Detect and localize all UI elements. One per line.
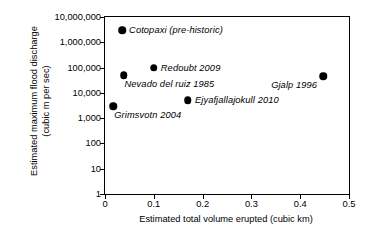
data-point-marker (120, 71, 128, 79)
data-point-label: Grimsvotn 2004 (114, 110, 181, 120)
data-point-label: Nevado del ruiz 1985 (125, 79, 215, 89)
data-point-label: Redoubt 2009 (161, 63, 221, 73)
x-axis-title: Estimated total volume erupted (cubic km… (104, 214, 348, 224)
x-tick-label: 0.4 (294, 199, 307, 209)
x-tick-label: 0 (102, 199, 107, 209)
y-tick-label: 10,000 (73, 88, 101, 98)
y-axis-title-line2: (cubic m per sec) (40, 6, 52, 196)
x-tick-label: 0.2 (196, 199, 209, 209)
y-tick-label: 1,000 (78, 113, 101, 123)
data-point-label: Ejyafjallajokull 2010 (195, 95, 279, 105)
chart-figure: Estimated maximum flood discharge (cubic… (0, 0, 371, 237)
x-tick-label: 0.5 (343, 199, 356, 209)
y-tick-label: 100 (85, 138, 101, 148)
y-tick-label: 1,000,000 (60, 37, 101, 47)
data-point-label: Cotopaxi (pre-historic) (129, 25, 223, 35)
y-axis-title: Estimated maximum flood discharge (cubic… (0, 0, 34, 200)
data-point-marker (319, 73, 327, 81)
x-tick-label: 0.1 (147, 199, 160, 209)
y-axis-title-line1: Estimated maximum flood discharge (29, 26, 39, 176)
data-point-marker (184, 97, 192, 105)
plot-area: 10,000,0001,000,000100,00010,0001,000100… (104, 16, 350, 195)
data-point-marker (110, 102, 118, 110)
y-tick-label: 10,000,000 (54, 12, 101, 22)
y-tick-label: 100,000 (67, 63, 101, 73)
data-point-marker (150, 64, 158, 72)
data-point-label: Gjalp 1996 (271, 80, 317, 90)
data-point-marker (118, 26, 126, 34)
x-tick-label: 0.3 (245, 199, 258, 209)
y-tick-label: 1 (96, 189, 101, 199)
y-tick-label: 10 (91, 164, 101, 174)
